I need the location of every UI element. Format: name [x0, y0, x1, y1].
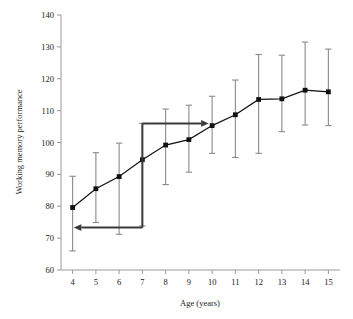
y-axis-tick-label: 120 [41, 74, 54, 84]
data-point-marker [279, 96, 284, 101]
data-point-marker [210, 123, 215, 128]
y-axis-tick-label: 70 [46, 233, 55, 243]
x-axis-tick-label: 15 [324, 277, 333, 287]
x-axis-title: Age (years) [180, 298, 220, 308]
y-axis-tick-label: 110 [42, 106, 54, 116]
data-point-marker [117, 174, 122, 179]
y-axis-title: Working memory performance [14, 89, 24, 194]
data-point-marker [303, 88, 308, 93]
y-axis-tick-label: 140 [41, 10, 54, 20]
data-point-marker [186, 137, 191, 142]
x-axis-tick-label: 8 [164, 277, 168, 287]
y-axis-tick-label: 130 [41, 42, 54, 52]
x-axis-tick-label: 11 [231, 277, 239, 287]
x-axis-tick-label: 10 [208, 277, 217, 287]
x-axis-tick-label: 12 [254, 277, 263, 287]
y-axis-tick-label: 60 [46, 265, 55, 275]
data-point-marker [93, 186, 98, 191]
data-point-marker [256, 97, 261, 102]
y-axis-tick-label: 80 [46, 201, 55, 211]
y-axis-tick-label: 90 [46, 169, 55, 179]
x-axis-tick-label: 5 [94, 277, 98, 287]
y-axis-tick-label: 100 [41, 138, 54, 148]
x-axis-tick-label: 13 [278, 277, 287, 287]
x-axis-tick-label: 14 [301, 277, 310, 287]
data-point-marker [70, 205, 75, 210]
chart-svg: 60708090100110120130140 4567891011121314… [0, 0, 353, 319]
data-point-marker [326, 89, 331, 94]
x-axis-tick-label: 6 [117, 277, 121, 287]
chart-figure: 60708090100110120130140 4567891011121314… [0, 0, 353, 319]
x-axis-tick-label: 9 [187, 277, 191, 287]
data-point-marker [163, 143, 168, 148]
x-axis-tick-label: 7 [140, 277, 144, 287]
data-point-marker [233, 112, 238, 117]
